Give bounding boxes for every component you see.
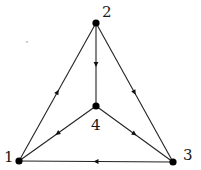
node-dot [92, 102, 99, 109]
stray-speck [26, 41, 27, 42]
arrowhead-icon [131, 131, 136, 136]
node-label: 2 [102, 3, 112, 21]
node-dot [92, 19, 99, 26]
node-4: 4 [91, 102, 101, 134]
edge-4-to-3 [96, 106, 173, 162]
edge-1-to-2 [19, 23, 96, 161]
node-label: 4 [91, 116, 101, 134]
node-label: 1 [4, 148, 14, 166]
edge-2-to-4 [94, 23, 99, 106]
node-label: 3 [183, 146, 193, 164]
edge-4-to-1 [19, 106, 96, 161]
node-dot [15, 157, 22, 164]
node-1: 1 [4, 148, 23, 166]
node-dot [169, 158, 176, 165]
edge-2-to-3 [96, 23, 173, 162]
edges-layer [19, 23, 173, 164]
arrowhead-icon [94, 159, 99, 164]
node-3: 3 [169, 146, 192, 166]
arrowhead-icon [55, 130, 60, 135]
directed-graph-diagram: 1234 [0, 0, 201, 170]
node-2: 2 [92, 3, 111, 27]
edge-3-to-1 [19, 159, 173, 164]
arrowhead-icon [94, 62, 99, 67]
